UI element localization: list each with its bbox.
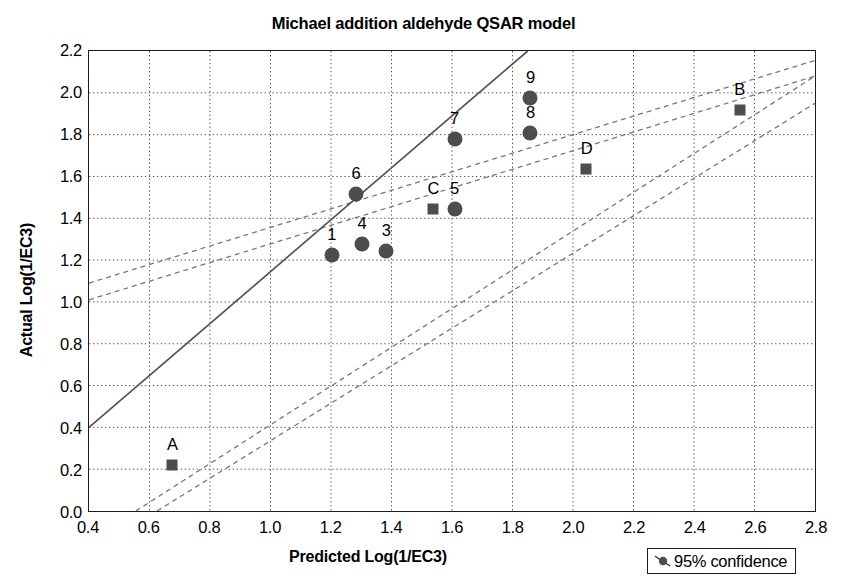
y-tick-label: 0.4 bbox=[36, 419, 82, 438]
data-point-A bbox=[167, 459, 178, 470]
data-point-D bbox=[581, 163, 592, 174]
data-point-label-7: 7 bbox=[450, 109, 459, 128]
data-point-label-5: 5 bbox=[450, 179, 459, 198]
x-tick-label: 2.4 bbox=[667, 518, 723, 537]
legend-item-label: 95% confidence bbox=[674, 552, 787, 571]
x-tick-label: 1.8 bbox=[485, 518, 541, 537]
data-point-4 bbox=[355, 237, 370, 252]
x-axis-ticks: 0.40.60.81.01.21.41.61.82.02.22.42.62.8 bbox=[88, 518, 816, 544]
data-point-8 bbox=[523, 125, 538, 140]
data-point-label-3: 3 bbox=[382, 221, 391, 240]
data-point-5 bbox=[447, 201, 462, 216]
data-point-label-6: 6 bbox=[351, 164, 360, 183]
y-axis-title: Actual Log(1/EC3) bbox=[18, 140, 36, 440]
data-point-C bbox=[428, 203, 439, 214]
data-point-3 bbox=[379, 243, 394, 258]
x-tick-label: 2.2 bbox=[606, 518, 662, 537]
y-tick-label: 2.0 bbox=[36, 83, 82, 102]
y-tick-label: 0.6 bbox=[36, 377, 82, 396]
x-axis-title: Predicted Log(1/EC3) bbox=[88, 548, 648, 566]
data-point-B bbox=[734, 104, 745, 115]
data-point-label-4: 4 bbox=[358, 214, 367, 233]
data-point-label-C: C bbox=[427, 179, 439, 198]
data-point-label-1: 1 bbox=[327, 225, 336, 244]
y-tick-label: 0.2 bbox=[36, 461, 82, 480]
x-tick-label: 2.8 bbox=[788, 518, 844, 537]
x-tick-label: 2.6 bbox=[727, 518, 783, 537]
y-tick-label: 1.6 bbox=[36, 167, 82, 186]
y-axis-ticks: 0.00.20.40.60.81.01.21.41.61.82.02.2 bbox=[30, 50, 82, 512]
y-tick-label: 1.2 bbox=[36, 251, 82, 270]
data-point-label-B: B bbox=[734, 80, 745, 99]
x-tick-label: 2.0 bbox=[545, 518, 601, 537]
plot-area: 13456789ABCD bbox=[88, 50, 816, 512]
y-tick-label: 1.8 bbox=[36, 125, 82, 144]
data-point-7 bbox=[447, 132, 462, 147]
data-point-9 bbox=[523, 91, 538, 106]
chart-title: Michael addition aldehyde QSAR model bbox=[0, 14, 847, 33]
x-tick-label: 0.4 bbox=[60, 518, 116, 537]
x-tick-label: 0.8 bbox=[181, 518, 237, 537]
data-point-1 bbox=[324, 247, 339, 262]
legend: 95% confidence bbox=[647, 548, 796, 574]
data-point-label-A: A bbox=[167, 435, 178, 454]
data-point-label-9: 9 bbox=[526, 68, 535, 87]
x-tick-label: 0.6 bbox=[121, 518, 177, 537]
y-tick-label: 1.4 bbox=[36, 209, 82, 228]
data-point-label-D: D bbox=[581, 139, 593, 158]
y-tick-label: 0.8 bbox=[36, 335, 82, 354]
x-tick-label: 1.0 bbox=[242, 518, 298, 537]
x-tick-label: 1.4 bbox=[363, 518, 419, 537]
x-tick-label: 1.2 bbox=[303, 518, 359, 537]
data-point-6 bbox=[348, 186, 363, 201]
confidence-marker-icon bbox=[654, 553, 672, 569]
y-tick-label: 1.0 bbox=[36, 293, 82, 312]
y-tick-label: 2.2 bbox=[36, 41, 82, 60]
x-tick-label: 1.6 bbox=[424, 518, 480, 537]
qsar-scatter-chart: Michael addition aldehyde QSAR model 134… bbox=[0, 0, 847, 582]
